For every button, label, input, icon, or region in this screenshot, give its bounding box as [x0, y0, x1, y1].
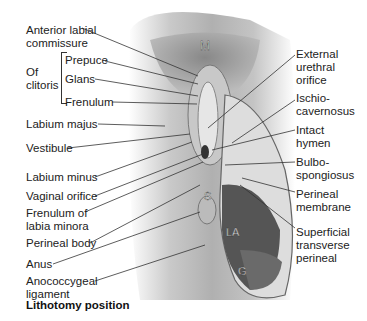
label-labium-majus: Labium majus — [26, 118, 98, 131]
label-bulbospongiosus: Bulbo- spongiosus — [296, 156, 354, 182]
svg-text:LA: LA — [226, 226, 240, 238]
label-of-clitoris: Of clitoris — [26, 66, 59, 92]
label-frenulum: Frenulum — [65, 96, 114, 109]
label-line: Ischio- — [296, 92, 355, 105]
label-line: Of — [26, 66, 59, 79]
label-line: Intact — [296, 124, 331, 137]
label-line: Perineal — [296, 188, 351, 201]
label-glans: Glans — [65, 73, 95, 86]
label-line: spongiosus — [296, 169, 354, 182]
label-anterior-labial-commissure: Anterior labial commissure — [26, 24, 96, 50]
label-line: Anococcygeal — [26, 275, 98, 288]
label-line: Bulbo- — [296, 156, 354, 169]
svg-text:S: S — [204, 190, 211, 202]
label-line: clitoris — [26, 79, 59, 92]
label-perineal-membrane: Perineal membrane — [296, 188, 351, 214]
svg-text:M: M — [200, 39, 210, 53]
label-line: transverse — [296, 239, 350, 252]
label-superficial-transverse-perineal: Superficial transverse perineal — [296, 226, 350, 265]
label-prepuce: Prepuce — [65, 54, 108, 67]
label-anus: Anus — [26, 258, 52, 271]
label-line: perineal — [296, 252, 350, 265]
label-line: labia minora — [26, 220, 89, 233]
label-perineal-body: Perineal body — [26, 237, 96, 250]
label-line: urethral — [296, 61, 338, 74]
figure-caption: Lithotomy position — [26, 299, 129, 311]
label-line: Frenulum of — [26, 207, 89, 220]
label-line: Superficial — [296, 226, 350, 239]
label-frenulum-labia-minora: Frenulum of labia minora — [26, 207, 89, 233]
label-line: orifice — [296, 74, 338, 87]
labia-minora — [198, 82, 218, 158]
label-anococcygeal-ligament: Anococcygeal ligament — [26, 275, 98, 301]
vaginal-orifice-shape — [201, 145, 209, 159]
label-line: membrane — [296, 201, 351, 214]
label-ischiocavernosus: Ischio- cavernosus — [296, 92, 355, 118]
label-vestibule: Vestibule — [26, 142, 73, 155]
label-line: commissure — [26, 37, 96, 50]
svg-text:G: G — [238, 265, 247, 277]
label-external-urethral-orifice: External urethral orifice — [296, 48, 338, 87]
label-line: Anterior labial — [26, 24, 96, 37]
label-line: External — [296, 48, 338, 61]
label-vaginal-orifice: Vaginal orifice — [26, 190, 97, 203]
label-labium-minus: Labium minus — [26, 171, 98, 184]
label-line: hymen — [296, 137, 331, 150]
label-line: cavernosus — [296, 105, 355, 118]
label-intact-hymen: Intact hymen — [296, 124, 331, 150]
